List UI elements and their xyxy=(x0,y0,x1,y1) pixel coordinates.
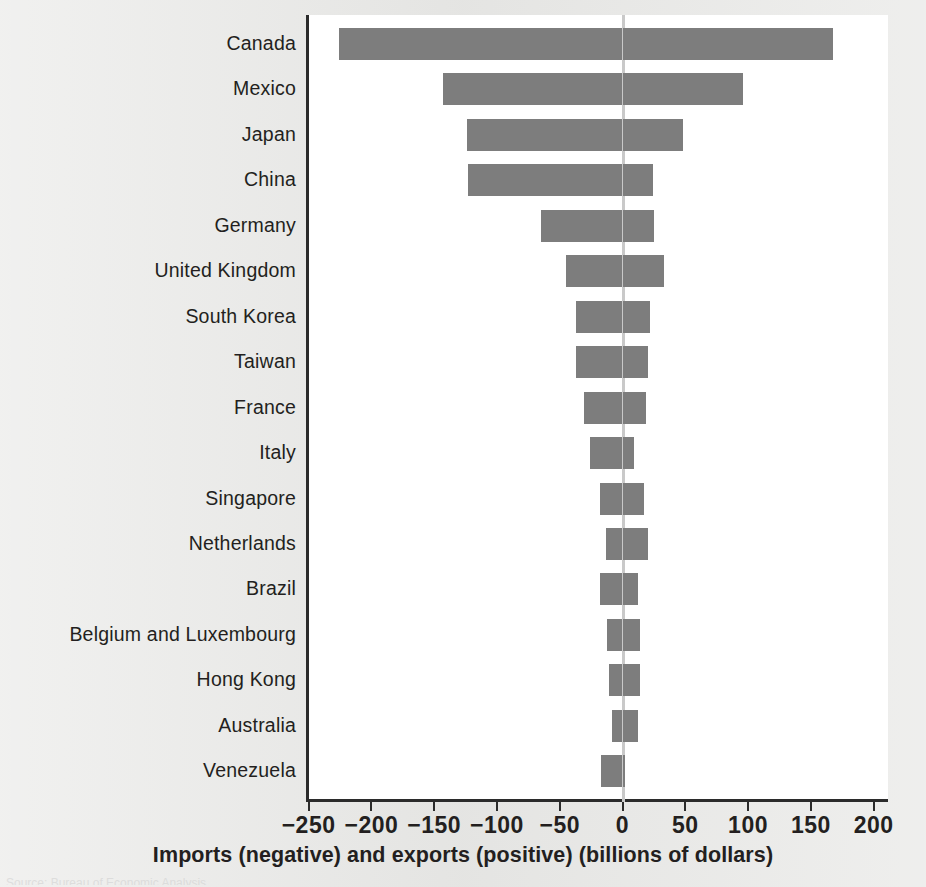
bar-exports xyxy=(623,483,644,515)
bar-imports xyxy=(541,210,623,242)
bar-imports xyxy=(606,528,622,560)
bar-exports xyxy=(623,301,651,333)
bar-exports xyxy=(623,164,653,196)
source-note: Source: Bureau of Economic Analysis xyxy=(6,876,506,885)
bar-exports xyxy=(623,28,834,60)
bar-exports xyxy=(623,346,648,378)
bar-imports xyxy=(590,437,623,469)
x-tick-label: 100 xyxy=(728,812,768,839)
bar-imports xyxy=(609,664,623,696)
trade-bar-chart-figure: CanadaMexicoJapanChinaGermanyUnited King… xyxy=(0,0,926,887)
x-tick-label: −150 xyxy=(407,812,461,839)
bar-exports xyxy=(623,73,744,105)
x-tick-label: 200 xyxy=(854,812,894,839)
bar-imports xyxy=(601,755,622,787)
bar-imports xyxy=(600,573,623,605)
x-tick xyxy=(622,802,624,811)
bar-imports xyxy=(468,164,622,196)
bar-imports xyxy=(339,28,623,60)
x-tick xyxy=(873,802,875,811)
x-tick xyxy=(308,802,310,811)
bar-imports xyxy=(467,119,623,151)
x-axis-title: Imports (negative) and exports (positive… xyxy=(0,843,926,868)
x-tick-label: −200 xyxy=(344,812,398,839)
x-tick xyxy=(370,802,372,811)
bar-imports xyxy=(576,346,622,378)
bar-exports xyxy=(623,619,641,651)
bar-exports xyxy=(623,210,654,242)
x-tick-label: −50 xyxy=(539,812,580,839)
bar-exports xyxy=(623,119,683,151)
bar-imports xyxy=(443,73,623,105)
bar-imports xyxy=(600,483,623,515)
x-tick xyxy=(433,802,435,811)
bar-exports xyxy=(623,710,638,742)
x-tick-label: −100 xyxy=(470,812,524,839)
x-tick xyxy=(810,802,812,811)
bar-imports xyxy=(612,710,622,742)
bar-imports xyxy=(607,619,622,651)
x-tick xyxy=(559,802,561,811)
bar-series-group xyxy=(0,0,926,887)
x-tick xyxy=(496,802,498,811)
x-tick-label: 50 xyxy=(672,812,699,839)
x-tick xyxy=(747,802,749,811)
bar-exports xyxy=(623,255,664,287)
bar-imports xyxy=(576,301,622,333)
bar-exports xyxy=(623,392,647,424)
x-tick-label: 0 xyxy=(616,812,629,839)
page-background: CanadaMexicoJapanChinaGermanyUnited King… xyxy=(0,0,926,887)
x-tick-label: 150 xyxy=(791,812,831,839)
bar-imports xyxy=(584,392,623,424)
x-tick-label: −250 xyxy=(282,812,336,839)
bar-exports xyxy=(623,528,648,560)
bar-exports xyxy=(623,573,638,605)
bar-exports xyxy=(623,437,634,469)
x-tick xyxy=(684,802,686,811)
bar-imports xyxy=(566,255,623,287)
bar-exports xyxy=(623,664,641,696)
bar-exports xyxy=(623,755,626,787)
